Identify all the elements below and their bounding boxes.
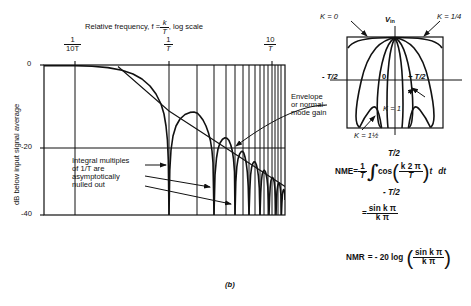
y-tick-minus20: -20 (21, 143, 32, 151)
y-tick-minus40: -40 (21, 210, 32, 218)
nmr-fraction: sin k πk π (413, 249, 444, 267)
annotation-nulls: Integral multiples of 1/T are asymptotic… (72, 157, 129, 189)
figure-normal-mode-rejection: Relative frequency, f =kT, log scale dB … (0, 0, 471, 306)
cosine-fn: cos (378, 168, 392, 177)
close-paren: ) (423, 166, 430, 178)
integral-upper-limit: T/2 (388, 150, 400, 159)
axis-title-suffix: , log scale (169, 23, 203, 31)
integral-lower-limit: - T/2 (383, 189, 400, 198)
nme-name: NME (335, 168, 353, 177)
nulls-leader-lines (145, 165, 231, 204)
axis-title-fraction: kT (160, 19, 169, 36)
chart-axis-title: Relative frequency, f =kT, log scale (85, 19, 203, 36)
label-minus-T-over-2: - T/2 (322, 73, 338, 81)
axis-title-prefix: Relative frequency, f = (85, 23, 160, 31)
integrand-argument: k 2 πT (399, 163, 423, 181)
nme-coefficient: 1T (358, 163, 367, 181)
nmr-open-paren: ( (406, 252, 413, 264)
figure-caption: (b) (225, 281, 235, 289)
formula-nme-result: =sin k πk π (362, 205, 398, 223)
x-tick-10-over-T: 10 T (264, 36, 276, 53)
annotation-envelope: Envelope or normal- mode gain (291, 93, 326, 117)
weighting-function-panel (330, 21, 462, 135)
label-k-0: K = 0 (320, 13, 338, 21)
differential: dt (432, 168, 446, 177)
x-tick-1-over-10T: 1 10T (64, 36, 81, 53)
y-axis-label: dB below input signal average (12, 104, 21, 205)
nmr-equals: = - 20 log (365, 254, 407, 263)
y-tick-0: 0 (27, 60, 31, 68)
nmr-name: NMR (346, 254, 365, 263)
label-k-one-and-half: K = 1½ (354, 132, 378, 140)
label-v-in: Vin (385, 16, 395, 25)
formula-nmr: NMR= - 20 log(sin k πk π) (346, 249, 451, 267)
sinc-fraction: sin k πk π (367, 205, 398, 223)
nmr-close-paren: ) (444, 252, 451, 264)
integral-sign: ∫ (367, 165, 378, 178)
open-paren: ( (392, 166, 399, 178)
label-k-quarter: K = 1/4 (437, 13, 461, 21)
label-time-zero: 0 (382, 73, 386, 81)
label-k-one: K = 1 (383, 105, 401, 113)
x-tick-1-over-T: 1 T (164, 36, 173, 53)
label-plus-T-over-2: + T/2 (408, 73, 426, 81)
formula-nme: NME=1T∫cos(k 2 πT)tdt (335, 163, 446, 181)
